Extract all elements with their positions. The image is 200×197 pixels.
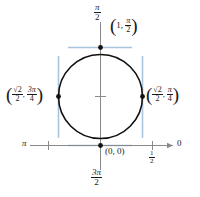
axis-label-pi: π bbox=[22, 139, 27, 148]
point-label-pi-over-2: (1, π 2 ) bbox=[110, 17, 138, 35]
point-marker-pi-over-4 bbox=[140, 94, 145, 99]
point-label-3pi-over-4: ( √2 2 , 3π 4 ) bbox=[6, 86, 43, 104]
point-marker-origin bbox=[98, 143, 103, 148]
axis-arrow-right bbox=[167, 143, 173, 148]
axis-label-3pi-over-2: 3π 2 bbox=[91, 168, 102, 188]
polar-graph-figure: π 2 3π 2 π 0 1 2 (0, 0) (1, π 2 ) ( √2 2… bbox=[0, 0, 200, 197]
point-label-pi-over-4: ( √2 2 , π 4 ) bbox=[146, 86, 179, 104]
tick-label-one-half: 1 2 bbox=[149, 150, 155, 166]
axis-label-zero: 0 bbox=[177, 139, 182, 148]
point-label-origin: (0, 0) bbox=[105, 147, 125, 156]
point-marker-pi-over-2 bbox=[98, 45, 103, 50]
axis-label-pi-over-2: π 2 bbox=[94, 3, 101, 23]
point-marker-3pi-over-4 bbox=[56, 94, 61, 99]
